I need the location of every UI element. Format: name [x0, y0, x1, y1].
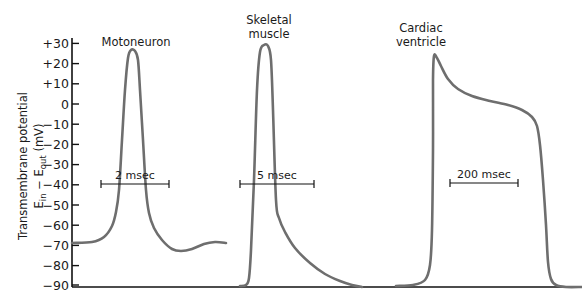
trace-skeletal-muscle	[240, 44, 362, 287]
y-tick-label: −70	[43, 238, 69, 253]
trace-title: Skeletal	[246, 13, 292, 27]
trace-titles: MotoneuronSkeletalmuscleCardiacventricle	[102, 13, 447, 49]
y-tick-label: +20	[43, 56, 69, 71]
y-tick-label: −60	[43, 218, 69, 233]
trace-title: ventricle	[396, 35, 446, 49]
trace-motoneuron	[72, 49, 226, 251]
trace-title: Motoneuron	[102, 35, 171, 49]
y-tick-label: +10	[43, 76, 69, 91]
time-scale-bars: 2 msec5 msec200 msec	[101, 168, 518, 188]
time-scale-label: 200 msec	[457, 168, 511, 181]
y-tick-label: −90	[43, 278, 69, 293]
trace-title: Cardiac	[399, 21, 442, 35]
y-tick-label: −10	[43, 117, 69, 132]
y-tick-label: 0	[61, 97, 69, 112]
y-tick-label: −40	[43, 177, 69, 192]
time-scale-label: 2 msec	[115, 169, 155, 182]
traces	[72, 44, 582, 287]
y-axis: +30+20+100−10−20−30−40−50−60−70−80−90	[43, 36, 582, 293]
y-label-line2: Ein − Eout (mV)	[32, 124, 48, 209]
y-label-line1: Transmembrane potential	[16, 92, 30, 241]
y-tick-label: −20	[43, 137, 69, 152]
y-tick-label: −80	[43, 258, 69, 273]
y-tick-label: +30	[43, 36, 69, 51]
time-scale-label: 5 msec	[257, 169, 297, 182]
action-potential-chart: +30+20+100−10−20−30−40−50−60−70−80−90 Tr…	[0, 0, 582, 304]
trace-title: muscle	[248, 27, 289, 41]
